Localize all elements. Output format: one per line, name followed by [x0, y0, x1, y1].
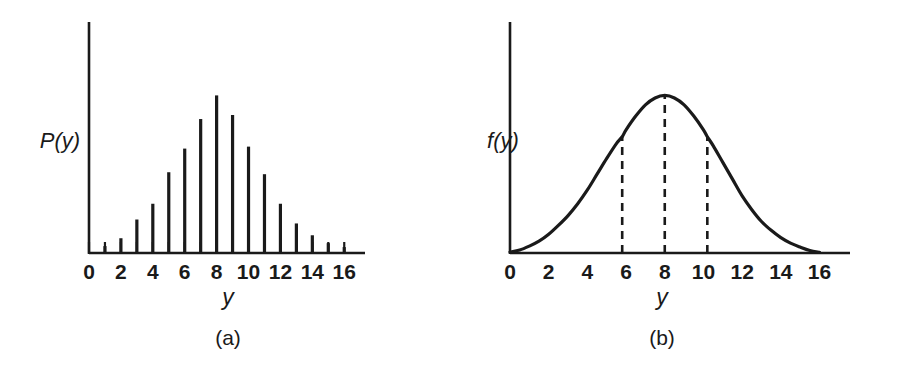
panel-b-x-axis-label: y [654, 284, 669, 310]
panel-b-caption: (b) [649, 326, 675, 349]
panel-a-stem-group [105, 95, 344, 253]
panel-a-tick-label: 6 [179, 260, 191, 283]
panel-a-tick-label-group: 0246810121416 [83, 260, 356, 283]
panel-a-tick-label: 12 [269, 260, 292, 283]
panel-b-continuous-distribution: f(y) 0246810121416 y (b) [450, 0, 901, 371]
panel-b-tick-label: 2 [543, 260, 555, 283]
panel-b-tick-label: 12 [730, 260, 753, 283]
panel-b-tick-label-group: 0246810121416 [504, 260, 831, 283]
panel-b-tick-label: 6 [620, 260, 632, 283]
panel-a-discrete-distribution: P(y) 0246810121416 y (a) [0, 0, 450, 371]
panel-b-tick-label: 0 [504, 260, 516, 283]
figure-root: P(y) 0246810121416 y (a) f(y) [0, 0, 901, 371]
panel-b-plot: f(y) 0246810121416 y (b) [450, 0, 901, 371]
panel-b-tick-label: 14 [769, 260, 793, 283]
panel-b-density-curve [510, 95, 820, 252]
panel-b-tick-label: 4 [582, 260, 594, 283]
panel-a-y-axis-label: P(y) [40, 128, 80, 153]
panel-a-tick-label: 14 [301, 260, 325, 283]
panel-a-tick-label: 10 [237, 260, 260, 283]
panel-b-tick-label: 8 [659, 260, 671, 283]
panel-b-tick-label: 10 [692, 260, 715, 283]
panel-a-tick-label: 8 [211, 260, 223, 283]
panel-a-tick-label: 0 [83, 260, 95, 283]
panel-a-plot: P(y) 0246810121416 y (a) [0, 0, 450, 371]
panel-a-caption: (a) [215, 326, 241, 349]
panel-b-y-axis-label: f(y) [487, 128, 519, 153]
panel-a-x-axis-label: y [220, 284, 235, 310]
panel-a-tick-label: 16 [333, 260, 356, 283]
panel-a-tick-label: 2 [115, 260, 127, 283]
panel-b-tick-label: 16 [808, 260, 831, 283]
panel-a-tick-label: 4 [147, 260, 159, 283]
